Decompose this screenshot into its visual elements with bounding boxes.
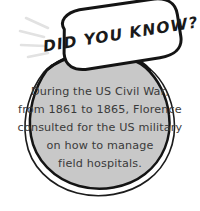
body-line-1: During the US Civil War, — [31, 85, 169, 98]
body-line-3: consulted for the US military — [18, 121, 183, 134]
body-line-5: field hospitals. — [58, 157, 142, 170]
body-line-4: on how to manage — [46, 139, 153, 152]
body-line-2: from 1861 to 1865, Florence — [18, 103, 182, 116]
fact-card: DID YOU KNOW? During the US Civil War, f… — [0, 0, 200, 211]
